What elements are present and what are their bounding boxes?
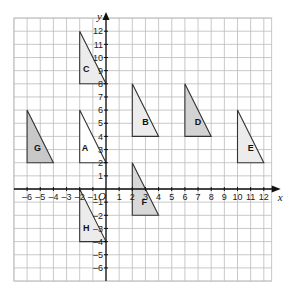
triangle-label: A [82,143,89,153]
y-tick-label: –2 [93,211,103,221]
triangle-label: G [34,143,41,153]
y-tick-label: –4 [93,237,103,247]
y-tick-label: 8 [98,79,103,89]
triangle-label: H [83,223,90,233]
grid-plot: –6–5–4–3–2–1123456789101112–6–5–4–3–2–11… [0,0,287,298]
triangle-label: B [142,117,149,127]
y-tick-label: 10 [93,53,103,63]
y-tick-label: 5 [98,118,103,128]
y-tick-label: 3 [98,145,103,155]
triangle-label: E [248,143,254,153]
x-tick-label: 12 [259,192,269,202]
origin-label: O [98,190,106,202]
x-tick-label: –4 [48,192,58,202]
x-tick-label: 1 [117,192,122,202]
x-tick-label: –2 [75,192,85,202]
x-tick-label: 8 [209,192,214,202]
y-tick-label: 4 [98,132,103,142]
x-tick-label: 6 [182,192,187,202]
x-tick-label: –3 [62,192,72,202]
x-tick-label: 5 [169,192,174,202]
y-tick-label: –5 [93,250,103,260]
x-axis-label: x [277,191,283,203]
triangle-label: D [195,117,202,127]
y-tick-label: 7 [98,92,103,102]
y-tick-label: 12 [93,26,103,36]
x-tick-label: –5 [35,192,45,202]
y-tick-label: 9 [98,66,103,76]
y-axis-arrow-icon [103,12,110,20]
x-tick-label: 11 [246,192,255,202]
triangle-label: F [141,197,147,207]
triangle-label: C [83,64,90,74]
x-tick-label: –6 [22,192,32,202]
coordinate-grid-diagram: –6–5–4–3–2–1123456789101112–6–5–4–3–2–11… [0,0,287,298]
x-tick-label: 9 [222,192,227,202]
y-tick-label: –3 [93,224,103,234]
x-tick-label: 7 [196,192,201,202]
y-tick-label: –6 [93,263,103,273]
y-tick-label: 1 [98,171,103,181]
y-axis-label: y [96,10,102,22]
x-tick-label: 4 [156,192,161,202]
y-tick-label: 11 [94,40,103,50]
y-tick-label: 2 [98,158,103,168]
y-tick-label: 6 [98,105,103,115]
x-tick-label: 10 [232,192,242,202]
x-tick-label: 2 [130,192,135,202]
